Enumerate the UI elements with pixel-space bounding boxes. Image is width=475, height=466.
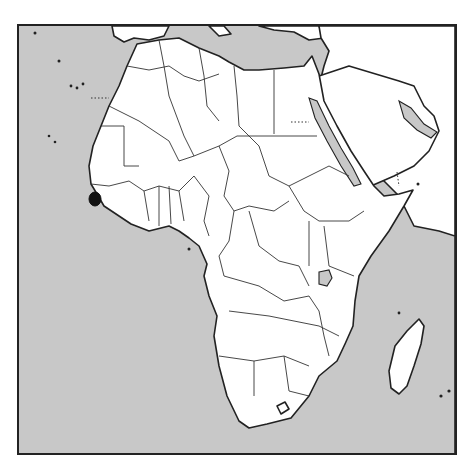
madagascar-land bbox=[389, 319, 424, 394]
italy-greece-land bbox=[209, 26, 324, 40]
africa-map bbox=[17, 24, 457, 455]
map-svg bbox=[19, 26, 455, 453]
sierra-leone-highlight bbox=[89, 192, 101, 206]
